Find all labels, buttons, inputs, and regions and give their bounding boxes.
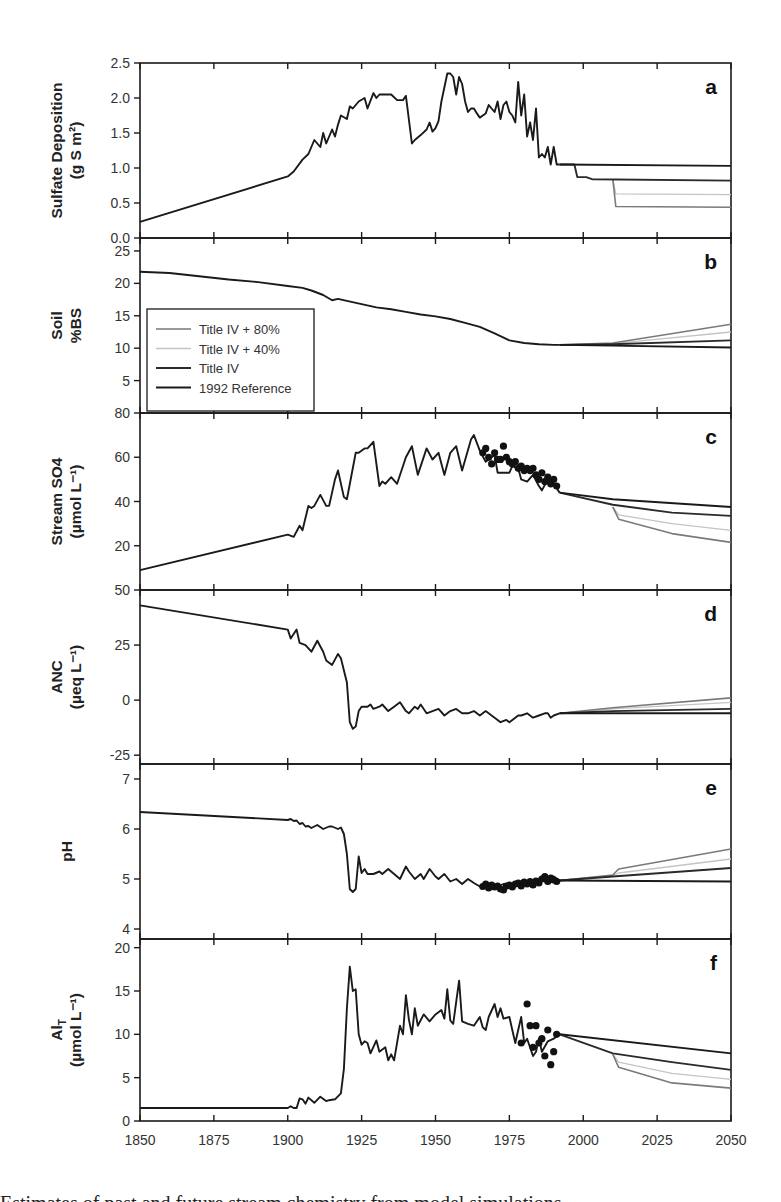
y-tick-label: 1.5 [111,125,131,141]
legend: Title IV + 80%Title IV + 40%Title IV1992… [147,309,314,411]
x-tick-label: 2050 [715,1132,746,1148]
y-axis-label: %BS [67,308,84,343]
scenario-line [613,1054,731,1088]
scenario-line [560,1034,731,1070]
x-tick-label: 1975 [494,1132,525,1148]
y-tick-label: 5 [122,1070,130,1086]
scenario-line [560,849,731,881]
historical-line [140,967,560,1108]
observed-point [532,1022,539,1029]
x-tick-label: 2025 [642,1132,673,1148]
observed-point [512,458,519,465]
y-tick-label: 60 [114,449,130,465]
panel-letter: a [705,75,717,98]
legend-label: Title IV + 80% [199,322,280,337]
observed-point [491,449,498,456]
y-tick-label: 25 [114,243,130,259]
y-tick-label: 20 [114,275,130,291]
panel-c: 20406080Stream SO4(µmol L⁻¹)c [48,405,731,590]
x-tick-label: 2000 [568,1132,599,1148]
y-axis-label: (µmol L⁻¹) [67,465,84,539]
legend-label: Title IV + 40% [199,342,280,357]
panel-d: -2502550ANC(µeq L⁻¹)d [48,582,731,764]
observed-point [538,1035,545,1042]
observed-point [500,443,507,450]
y-tick-label: 0 [122,692,130,708]
historical-line [140,605,560,728]
panel-letter: f [710,951,718,974]
scenario-line [560,165,731,181]
y-tick-label: 2.0 [111,90,131,106]
observed-point [538,469,545,476]
observed-point [544,1026,551,1033]
scenario-line [560,165,731,166]
scenario-line [613,179,731,194]
historical-line [140,74,560,222]
legend-label: Title IV [199,361,239,376]
y-tick-label: 6 [122,821,130,837]
observed-point [550,1048,557,1055]
observed-point [553,878,560,885]
y-tick-label: 0.5 [111,195,131,211]
scenario-line [560,881,731,882]
scenario-line [560,340,731,345]
y-tick-label: 20 [114,940,130,956]
y-tick-label: 1.0 [111,160,131,176]
y-axis-label: (g S m²) [67,122,84,180]
y-tick-label: 2.5 [111,55,131,71]
panel-frame [140,764,731,939]
y-axis-label: Stream SO4 [48,457,65,545]
x-tick-label: 1875 [198,1132,229,1148]
scenario-line [613,179,731,207]
y-tick-label: 4 [122,921,130,937]
x-tick-label: 1925 [346,1132,377,1148]
y-tick-label: 0 [122,1113,130,1129]
y-tick-label: 7 [122,771,130,787]
y-tick-label: -25 [110,747,130,763]
y-axis-label: (µmol L⁻¹) [67,993,84,1067]
y-tick-label: 50 [114,582,130,598]
panel-letter: c [705,425,717,448]
y-tick-label: 15 [114,308,130,324]
observed-point [485,454,492,461]
historical-line [140,812,560,892]
y-axis-label: pH [58,841,75,862]
x-tick-label: 1900 [272,1132,303,1148]
scenario-line [613,507,731,530]
figure-caption-fragment: Estimates of past and future stream chem… [0,1190,781,1202]
panel-frame [140,590,731,764]
y-tick-label: 80 [114,405,130,421]
observed-point [553,482,560,489]
scenario-line [560,345,731,348]
observed-point [524,1000,531,1007]
panel-frame [140,63,731,238]
y-tick-label: 15 [114,983,130,999]
observed-point [547,1061,554,1068]
observed-point [541,1052,548,1059]
panel-letter: b [704,250,717,273]
observed-point [550,476,557,483]
observed-point [553,1031,560,1038]
scenario-line [560,493,731,507]
y-tick-label: 10 [114,1026,130,1042]
y-tick-label: 40 [114,494,130,510]
chart-panels: 0.00.51.01.52.02.5Sulfate Deposition(g S… [48,55,731,1129]
panel-frame [140,939,731,1121]
panel-a: 0.00.51.01.52.02.5Sulfate Deposition(g S… [48,55,731,246]
y-tick-label: 5 [122,871,130,887]
x-tick-label: 1850 [124,1132,155,1148]
y-tick-label: 20 [114,538,130,554]
observed-point [488,460,495,467]
multi-panel-line-chart: 0.00.51.01.52.02.5Sulfate Deposition(g S… [0,0,781,1202]
x-axis: 185018751900192519501975200020252050 [124,1132,746,1148]
panel-e: 4567pHe [58,764,731,939]
y-axis-label: AlT [48,1019,68,1041]
observed-point [529,465,536,472]
panel-f: 05101520AlT(µmol L⁻¹)f [48,939,731,1129]
y-tick-label: 25 [114,637,130,653]
observed-point [482,445,489,452]
y-axis-label: Sulfate Deposition [48,82,65,218]
panel-letter: e [705,776,717,799]
observed-point [529,1044,536,1051]
legend-label: 1992 Reference [199,381,292,396]
